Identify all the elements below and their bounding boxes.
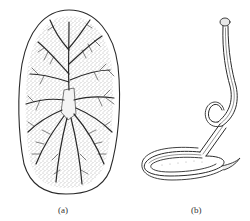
panel-a-caption: (a) [58,206,68,215]
panel-b-worm-illustration [140,12,245,182]
panel-a-flatworm-illustration [14,4,124,198]
figure: (a) (b) [0,0,250,221]
panel-b-caption: (b) [191,206,202,215]
worm-drawing [140,12,245,182]
flatworm-drawing [14,4,124,198]
